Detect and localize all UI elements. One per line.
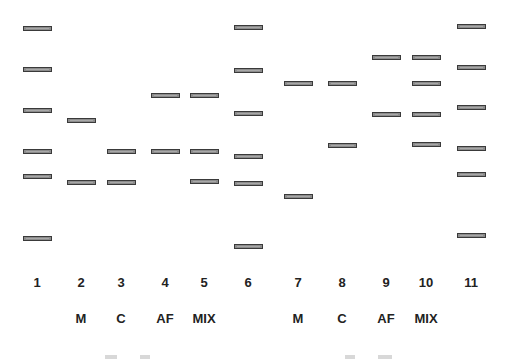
dna-band	[107, 180, 136, 185]
dna-band	[190, 93, 219, 98]
lane-number: 1	[17, 275, 57, 290]
dna-band	[23, 236, 52, 241]
dna-band	[412, 55, 441, 60]
lane-label: C	[96, 311, 146, 326]
clipped-caption-fragment	[345, 355, 355, 359]
dna-band	[412, 142, 441, 147]
dna-band	[284, 81, 313, 86]
dna-band	[23, 108, 52, 113]
lane-number: 5	[184, 275, 224, 290]
dna-band	[67, 180, 96, 185]
dna-band	[284, 194, 313, 199]
lane-label: MIX	[179, 311, 229, 326]
clipped-caption-fragment	[378, 355, 392, 359]
lane-number: 10	[406, 275, 446, 290]
lane-number: 11	[451, 275, 491, 290]
dna-band	[107, 149, 136, 154]
lane-number: 2	[61, 275, 101, 290]
lane-number: 3	[101, 275, 141, 290]
dna-band	[23, 26, 52, 31]
dna-band	[328, 143, 357, 148]
dna-band	[328, 81, 357, 86]
dna-band	[151, 149, 180, 154]
gel-diagram: 12M3C4AF5MIX67M8C9AF10MIX11	[0, 0, 509, 359]
lane-number: 9	[366, 275, 406, 290]
lane-label: M	[273, 311, 323, 326]
clipped-caption-fragment	[105, 355, 117, 359]
dna-band	[234, 244, 263, 249]
dna-band	[234, 68, 263, 73]
clipped-caption-fragment	[140, 355, 150, 359]
dna-band	[234, 154, 263, 159]
dna-band	[457, 146, 486, 151]
dna-band	[151, 93, 180, 98]
dna-band	[457, 233, 486, 238]
dna-band	[234, 25, 263, 30]
lane-number: 7	[278, 275, 318, 290]
dna-band	[23, 149, 52, 154]
dna-band	[23, 174, 52, 179]
dna-band	[412, 81, 441, 86]
dna-band	[234, 111, 263, 116]
dna-band	[234, 181, 263, 186]
dna-band	[457, 65, 486, 70]
dna-band	[23, 67, 52, 72]
dna-band	[190, 179, 219, 184]
dna-band	[457, 24, 486, 29]
dna-band	[457, 105, 486, 110]
lane-number: 8	[322, 275, 362, 290]
dna-band	[412, 112, 441, 117]
lane-number: 6	[228, 275, 268, 290]
lane-label: C	[317, 311, 367, 326]
lane-number: 4	[145, 275, 185, 290]
dna-band	[457, 172, 486, 177]
dna-band	[67, 118, 96, 123]
lane-label: MIX	[401, 311, 451, 326]
dna-band	[372, 112, 401, 117]
dna-band	[190, 149, 219, 154]
dna-band	[372, 55, 401, 60]
